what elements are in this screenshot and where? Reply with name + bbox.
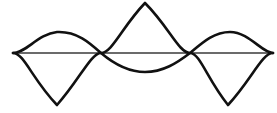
- wave-diagram: [0, 0, 277, 113]
- small-wave-curve: [13, 32, 273, 72]
- wave-diagram-canvas: [0, 0, 277, 113]
- large-wave-curve: [13, 3, 273, 105]
